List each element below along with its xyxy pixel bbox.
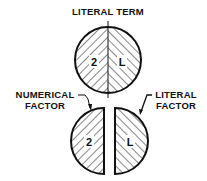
whole-term-circle: 2 L xyxy=(75,21,141,98)
numerical-factor-label-line1: NUMERICAL xyxy=(16,89,75,100)
literal-factor-leader xyxy=(141,95,152,112)
title-literal-term: LITERAL TERM xyxy=(72,6,144,17)
numerical-factor-leader xyxy=(78,95,90,108)
numerical-factor-half: 2 xyxy=(71,108,104,174)
split-right-symbol: L xyxy=(127,136,134,148)
literal-factor-half: L xyxy=(115,108,148,174)
arrow-icon xyxy=(139,109,143,115)
literal-term-diagram: LITERAL TERM 2 L NUMERICAL FACTOR LITERA… xyxy=(0,0,207,181)
whole-right-symbol: L xyxy=(119,56,126,68)
literal-factor-label-line2: FACTOR xyxy=(156,100,196,111)
whole-left-symbol: 2 xyxy=(91,56,97,68)
numerical-factor-label-line2: FACTOR xyxy=(25,100,65,111)
literal-factor-label-line1: LITERAL xyxy=(155,89,197,100)
split-left-symbol: 2 xyxy=(86,136,92,148)
